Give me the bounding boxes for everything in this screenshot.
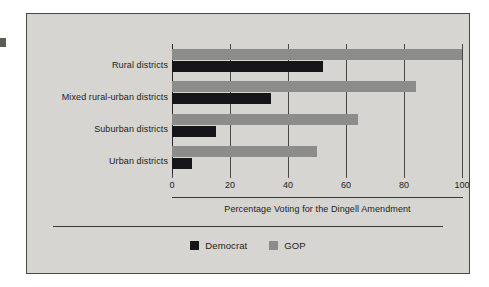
xtick-label-40: 40 bbox=[283, 180, 293, 190]
bar-gop-rural-districts bbox=[172, 49, 462, 60]
bar-democrat-suburban-districts bbox=[172, 126, 216, 137]
page-edge-mark bbox=[0, 38, 6, 47]
legend-label-democrat: Democrat bbox=[205, 240, 247, 251]
chart-legend: Democrat GOP bbox=[27, 240, 469, 251]
category-label-mixed-rural-urban: Mixed rural-urban districts bbox=[33, 92, 168, 102]
bar-democrat-rural-districts bbox=[172, 61, 323, 72]
x-axis-title: Percentage Voting for the Dingell Amendm… bbox=[172, 204, 463, 214]
xtick-label-100: 100 bbox=[454, 180, 469, 190]
legend-swatch-democrat-icon bbox=[190, 241, 199, 250]
bar-gop-suburban-districts bbox=[172, 114, 358, 125]
bar-democrat-mixed-rural-urban-districts bbox=[172, 93, 271, 104]
tick-stub-20 bbox=[230, 174, 231, 178]
axis-title-rule bbox=[172, 197, 463, 198]
category-label-urban: Urban districts bbox=[33, 156, 168, 166]
legend-item-democrat: Democrat bbox=[190, 240, 247, 251]
tick-stub-0 bbox=[172, 174, 173, 178]
gridline-60 bbox=[346, 44, 347, 174]
category-label-suburban: Suburban districts bbox=[33, 124, 168, 134]
tick-stub-60 bbox=[346, 174, 347, 178]
tick-stub-40 bbox=[288, 174, 289, 178]
legend-label-gop: GOP bbox=[284, 240, 305, 251]
gridline-80 bbox=[404, 44, 405, 174]
bar-gop-urban-districts bbox=[172, 146, 317, 157]
xtick-label-20: 20 bbox=[225, 180, 235, 190]
legend-divider-rule bbox=[53, 226, 443, 227]
xtick-label-0: 0 bbox=[169, 180, 174, 190]
bar-gop-mixed-rural-urban-districts bbox=[172, 81, 416, 92]
bar-democrat-urban-districts bbox=[172, 158, 192, 169]
plot-area: 0 20 40 60 80 100 bbox=[172, 44, 463, 174]
tick-stub-100 bbox=[462, 174, 463, 178]
chart-figure-frame: Rural districts Mixed rural-urban distri… bbox=[26, 13, 470, 274]
legend-item-gop: GOP bbox=[269, 240, 305, 251]
category-label-rural: Rural districts bbox=[33, 60, 168, 70]
tick-stub-80 bbox=[404, 174, 405, 178]
legend-swatch-gop-icon bbox=[269, 241, 278, 250]
plot-region: Rural districts Mixed rural-urban distri… bbox=[27, 14, 469, 273]
category-axis-labels: Rural districts Mixed rural-urban distri… bbox=[33, 44, 168, 174]
xtick-label-80: 80 bbox=[399, 180, 409, 190]
xtick-label-60: 60 bbox=[341, 180, 351, 190]
gridline-100 bbox=[462, 44, 463, 174]
